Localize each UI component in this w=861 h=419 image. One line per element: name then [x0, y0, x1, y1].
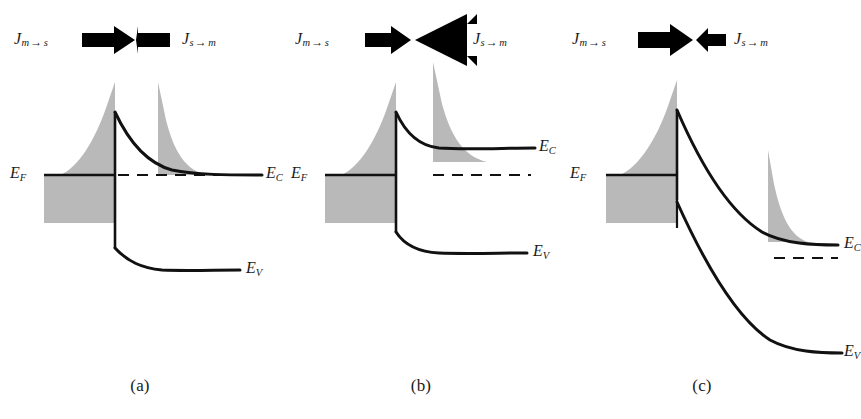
conduction-band-curve-c [677, 110, 838, 245]
conduction-band-label-b: EC [539, 137, 556, 156]
panel-c: Jm→s Js→m [562, 0, 842, 419]
flux-arrow-pair-c [638, 24, 726, 56]
panel-caption-c: (c) [562, 376, 842, 396]
fermi-level-label-b: EF [291, 164, 307, 183]
panel-caption-a: (a) [0, 376, 280, 396]
valence-band-curve-b [396, 232, 527, 253]
panel-a: Jm→s Js→m [0, 0, 280, 419]
fermi-level-label-a: EF [10, 164, 26, 183]
flux-arrow-right-a [136, 26, 170, 54]
band-diagram-svg-a [0, 0, 280, 376]
valence-band-curve-a [115, 248, 240, 270]
valence-band-curve-c [677, 202, 842, 353]
conduction-band-curve-a [115, 112, 262, 175]
band-diagram-svg-c [562, 0, 859, 376]
panel-b: Jm→s Js→m [281, 0, 561, 419]
semiconductor-carrier-distribution-a [158, 82, 206, 175]
semiconductor-carrier-distribution-c [768, 150, 808, 242]
metal-carrier-distribution-c [620, 80, 677, 175]
flux-arrow-right-b [415, 14, 477, 66]
conduction-band-curve-b [396, 112, 535, 149]
metal-electron-sea-c [606, 175, 677, 223]
valence-band-label-a: EV [246, 259, 262, 278]
valence-band-label-b: EV [533, 242, 549, 261]
flux-arrow-pair-a [82, 26, 170, 54]
flux-arrow-left-a [82, 26, 135, 54]
flux-arrow-right-c [696, 28, 726, 52]
flux-arrow-left-b [365, 26, 411, 54]
flux-arrow-left-c [638, 24, 693, 56]
metal-electron-sea-b [325, 175, 396, 223]
conduction-band-label-c: EC [844, 234, 861, 253]
metal-carrier-distribution-a [60, 82, 115, 175]
band-diagram-svg-b [281, 0, 561, 376]
metal-electron-sea-a [44, 175, 115, 223]
panel-caption-b: (b) [281, 376, 561, 396]
flux-arrow-pair-b [365, 14, 477, 66]
fermi-level-label-c: EF [570, 164, 586, 183]
valence-band-label-c: EV [844, 342, 860, 361]
metal-carrier-distribution-b [341, 82, 396, 175]
